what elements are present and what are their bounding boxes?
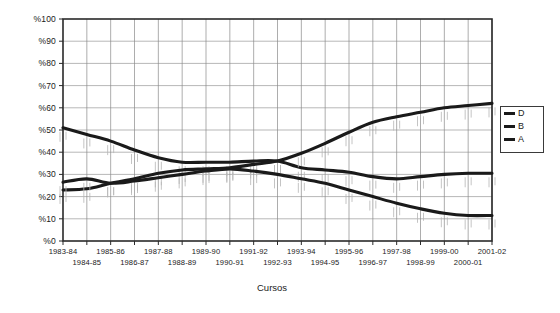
x-axis-tick-label: 1990-91 [207, 258, 253, 267]
x-axis-tick-label: 1997-98 [374, 247, 420, 256]
legend-item-0[interactable]: D [501, 107, 543, 120]
x-axis-tick-label: 2001-02 [469, 247, 515, 256]
x-axis-tick-label: 1986-87 [112, 258, 158, 267]
chart-figure: %0%10%20%30%40%50%60%70%80%90%100 1983-8… [0, 0, 560, 313]
legend-label: B [518, 122, 524, 131]
legend-item-1[interactable]: B [501, 120, 543, 133]
x-axis-tick-label: 2000-01 [445, 258, 491, 267]
legend-label: D [518, 109, 525, 118]
x-axis-tick-label: 1998-99 [398, 258, 444, 267]
x-axis-tick-label: 1989-90 [183, 247, 229, 256]
legend-line-icon [504, 112, 515, 115]
x-axis-tick-label: 1991-92 [231, 247, 277, 256]
x-axis-tick-label: 1994-95 [302, 258, 348, 267]
x-axis-tick-label: 1999-00 [421, 247, 467, 256]
legend-item-2[interactable]: A [501, 133, 543, 146]
x-axis-tick-label: 1992-93 [255, 258, 301, 267]
legend-line-icon [504, 138, 515, 141]
x-axis-tick-label: 1983-84 [40, 247, 86, 256]
x-axis-title: Cursos [257, 282, 287, 293]
x-axis-tick-label: 1996-97 [350, 258, 396, 267]
legend-line-icon [504, 125, 515, 128]
x-axis-tick-label: 1988-89 [159, 258, 205, 267]
x-axis-tick-label: 1995-96 [326, 247, 372, 256]
x-axis-tick-label: 1985-86 [88, 247, 134, 256]
legend: D B A [500, 106, 544, 153]
legend-label: A [518, 135, 524, 144]
x-axis-tick-label: 1993-94 [278, 247, 324, 256]
x-axis-tick-label: 1984-85 [64, 258, 110, 267]
x-axis-tick-label: 1987-88 [135, 247, 181, 256]
